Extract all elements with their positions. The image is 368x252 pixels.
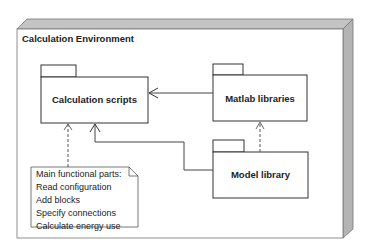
note-line: Read configuration	[36, 181, 122, 194]
node-top-face	[17, 19, 353, 29]
package-label-model-library: Model library	[213, 169, 308, 180]
node-right-face	[343, 19, 353, 238]
package-label-calculation-scripts: Calculation scripts	[41, 94, 148, 105]
note-line: Add blocks	[36, 194, 122, 207]
note-line: Calculate energy use	[36, 220, 122, 233]
package-label-matlab-libraries: Matlab libraries	[213, 93, 307, 104]
node-title: Calculation Environment	[22, 33, 134, 44]
note-line: Specify connections	[36, 207, 122, 220]
note-line: Main functional parts:	[36, 168, 122, 181]
note-text: Main functional parts: Read configuratio…	[36, 168, 122, 233]
